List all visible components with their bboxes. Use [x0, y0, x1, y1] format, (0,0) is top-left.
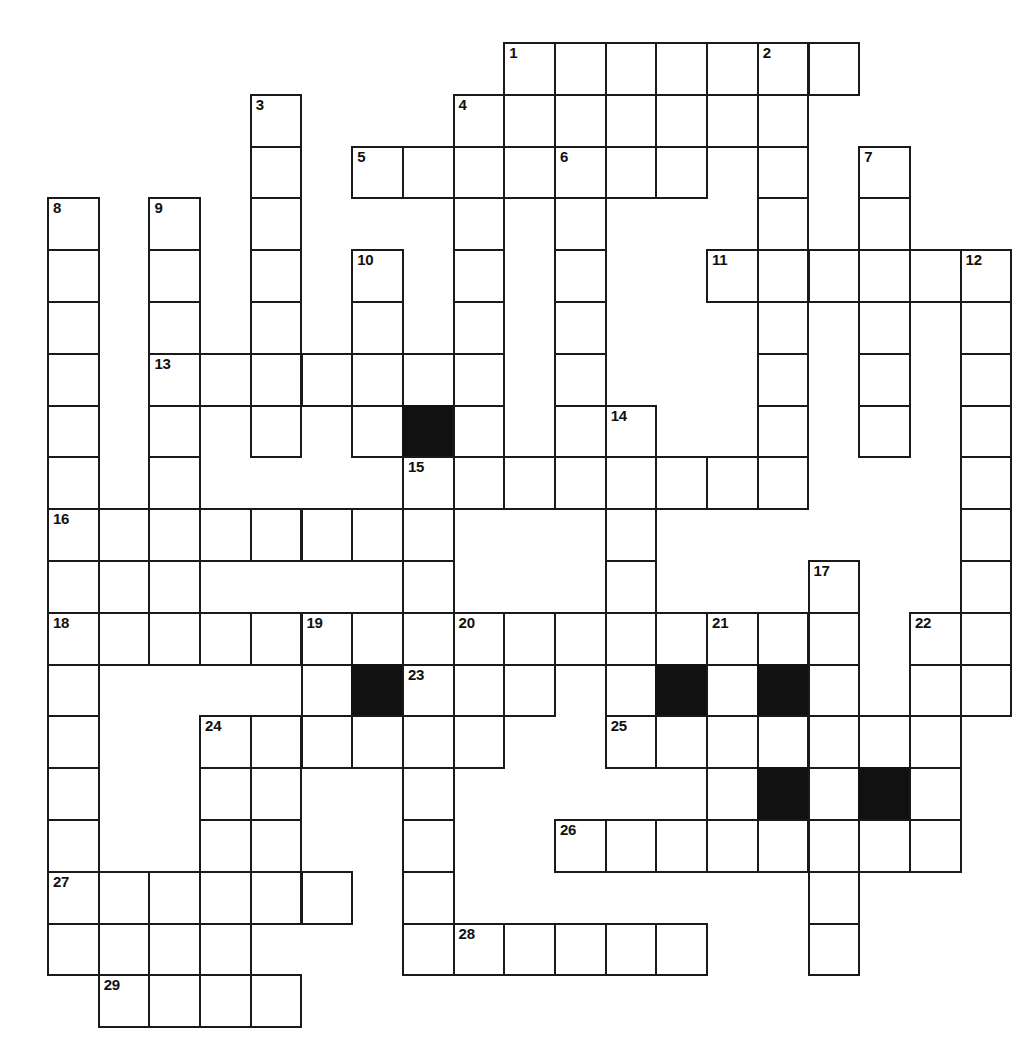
grid-cell[interactable] — [301, 508, 354, 562]
grid-cell[interactable] — [250, 612, 303, 666]
grid-cell[interactable] — [148, 508, 201, 562]
grid-cell[interactable] — [808, 871, 861, 925]
grid-cell[interactable]: 21 — [706, 612, 759, 666]
grid-cell[interactable] — [402, 923, 455, 977]
grid-cell[interactable]: 2 — [757, 42, 810, 96]
grid-cell[interactable] — [402, 146, 455, 200]
grid-cell[interactable] — [605, 146, 658, 200]
grid-cell[interactable] — [655, 612, 708, 666]
grid-cell[interactable] — [757, 456, 810, 510]
grid-cell[interactable] — [47, 456, 100, 510]
grid-cell[interactable]: 15 — [402, 456, 455, 510]
grid-cell[interactable] — [250, 405, 303, 459]
grid-cell[interactable] — [605, 42, 658, 96]
grid-cell[interactable] — [706, 456, 759, 510]
grid-cell[interactable]: 17 — [808, 560, 861, 614]
grid-cell[interactable]: 3 — [250, 94, 303, 148]
grid-cell[interactable] — [503, 664, 556, 718]
grid-cell[interactable] — [148, 871, 201, 925]
grid-cell[interactable] — [503, 456, 556, 510]
grid-cell[interactable] — [250, 146, 303, 200]
grid-cell[interactable] — [148, 560, 201, 614]
grid-cell[interactable] — [858, 197, 911, 251]
grid-cell[interactable] — [757, 249, 810, 303]
grid-cell[interactable] — [98, 923, 151, 977]
grid-cell[interactable] — [655, 42, 708, 96]
grid-cell[interactable]: 12 — [960, 249, 1013, 303]
grid-cell[interactable]: 24 — [199, 715, 252, 769]
grid-cell[interactable] — [250, 715, 303, 769]
grid-cell[interactable] — [250, 974, 303, 1028]
grid-cell[interactable] — [199, 974, 252, 1028]
grid-cell[interactable] — [757, 146, 810, 200]
grid-cell[interactable]: 14 — [605, 405, 658, 459]
grid-cell[interactable]: 16 — [47, 508, 100, 562]
grid-cell[interactable] — [250, 819, 303, 873]
grid-cell[interactable] — [148, 456, 201, 510]
grid-cell[interactable] — [250, 767, 303, 821]
grid-cell[interactable] — [858, 353, 911, 407]
grid-cell[interactable] — [960, 301, 1013, 355]
grid-cell[interactable] — [909, 819, 962, 873]
grid-cell[interactable] — [960, 456, 1013, 510]
grid-cell[interactable] — [706, 94, 759, 148]
grid-cell[interactable] — [503, 612, 556, 666]
grid-cell[interactable] — [199, 767, 252, 821]
grid-cell[interactable] — [757, 612, 810, 666]
grid-cell[interactable] — [605, 612, 658, 666]
grid-cell[interactable] — [453, 715, 506, 769]
grid-cell[interactable] — [301, 664, 354, 718]
grid-cell[interactable] — [250, 871, 303, 925]
grid-cell[interactable] — [47, 405, 100, 459]
grid-cell[interactable] — [554, 456, 607, 510]
grid-cell[interactable] — [148, 974, 201, 1028]
grid-cell[interactable] — [808, 664, 861, 718]
grid-cell[interactable] — [453, 249, 506, 303]
grid-cell[interactable] — [655, 819, 708, 873]
grid-cell[interactable] — [250, 249, 303, 303]
grid-cell[interactable]: 23 — [402, 664, 455, 718]
grid-cell[interactable] — [402, 767, 455, 821]
grid-cell[interactable] — [503, 94, 556, 148]
grid-cell[interactable] — [808, 767, 861, 821]
grid-cell[interactable] — [250, 197, 303, 251]
grid-cell[interactable] — [503, 923, 556, 977]
grid-cell[interactable] — [909, 249, 962, 303]
grid-cell[interactable]: 10 — [351, 249, 404, 303]
grid-cell[interactable] — [605, 508, 658, 562]
grid-cell[interactable] — [148, 301, 201, 355]
grid-cell[interactable] — [47, 767, 100, 821]
grid-cell[interactable] — [148, 612, 201, 666]
grid-cell[interactable] — [554, 612, 607, 666]
grid-cell[interactable] — [808, 715, 861, 769]
grid-cell[interactable] — [960, 405, 1013, 459]
grid-cell[interactable] — [808, 249, 861, 303]
grid-cell[interactable] — [808, 42, 861, 96]
grid-cell[interactable] — [554, 42, 607, 96]
grid-cell[interactable] — [605, 560, 658, 614]
grid-cell[interactable] — [47, 560, 100, 614]
grid-cell[interactable] — [909, 767, 962, 821]
grid-cell[interactable] — [655, 146, 708, 200]
grid-cell[interactable] — [757, 353, 810, 407]
grid-cell[interactable] — [250, 353, 303, 407]
grid-cell[interactable] — [554, 94, 607, 148]
grid-cell[interactable]: 6 — [554, 146, 607, 200]
grid-cell[interactable] — [757, 94, 810, 148]
grid-cell[interactable] — [605, 923, 658, 977]
grid-cell[interactable] — [47, 301, 100, 355]
grid-cell[interactable]: 20 — [453, 612, 506, 666]
grid-cell[interactable] — [808, 612, 861, 666]
grid-cell[interactable] — [402, 715, 455, 769]
grid-cell[interactable] — [199, 923, 252, 977]
grid-cell[interactable] — [858, 819, 911, 873]
grid-cell[interactable] — [808, 819, 861, 873]
grid-cell[interactable] — [199, 353, 252, 407]
grid-cell[interactable] — [402, 560, 455, 614]
grid-cell[interactable] — [453, 456, 506, 510]
grid-cell[interactable] — [605, 94, 658, 148]
grid-cell[interactable]: 11 — [706, 249, 759, 303]
grid-cell[interactable]: 29 — [98, 974, 151, 1028]
crossword-grid[interactable]: 1234567891011121314151617181920212223242… — [0, 0, 1032, 1059]
grid-cell[interactable] — [605, 664, 658, 718]
